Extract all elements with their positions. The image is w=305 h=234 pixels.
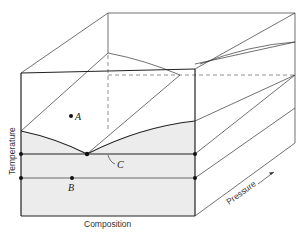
top-left-depth-edge — [21, 13, 108, 73]
label-b: B — [68, 182, 74, 193]
right-face-liquidus — [195, 42, 295, 64]
pressure-arrow-head-icon — [269, 172, 274, 175]
axis-label-temperature: Temperature — [7, 127, 17, 175]
back-liquidus-left — [108, 53, 180, 75]
axis-label-composition: Composition — [84, 219, 132, 229]
label-c: C — [117, 159, 124, 170]
dot-right-eutectic — [193, 152, 197, 156]
liquidus-surface-left — [21, 53, 108, 131]
dot-right-b — [193, 176, 197, 180]
dot-point-a — [69, 114, 73, 118]
phase-diagram: A B C Composition Temperature Pressure — [0, 0, 305, 234]
dot-left-eutectic — [19, 152, 23, 156]
dot-left-b — [19, 176, 23, 180]
label-a: A — [74, 111, 82, 122]
bottom-right-depth-edge — [195, 143, 295, 216]
solid-region-front — [21, 121, 195, 216]
right-face-lower — [195, 108, 295, 178]
right-face-eutectic — [195, 75, 295, 154]
dot-eutectic-point — [85, 152, 89, 156]
dot-point-b — [70, 176, 74, 180]
